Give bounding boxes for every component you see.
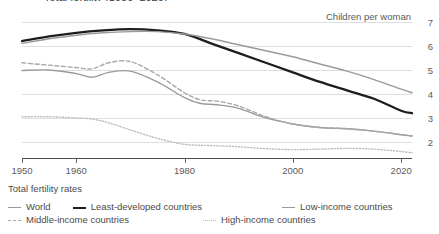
legend-line-swatch-icon	[282, 203, 295, 211]
series-line-world	[22, 70, 412, 136]
legend-line-swatch-icon	[8, 203, 21, 211]
series-line-middle-income-countries	[22, 61, 412, 136]
legend-item-label: High-income countries	[221, 214, 316, 225]
legend-row: WorldLeast-developed countriesLow-income…	[8, 200, 439, 213]
legend-line-swatch-icon	[8, 216, 21, 224]
legend-item-high-income-countries[interactable]: High-income countries	[203, 214, 316, 225]
legend-rows: WorldLeast-developed countriesLow-income…	[8, 200, 439, 226]
legend-item-least-developed-countries[interactable]: Least-developed countries	[73, 201, 202, 212]
series-line-low-income-countries	[22, 31, 412, 92]
legend-item-low-income-countries[interactable]: Low-income countries	[282, 201, 392, 212]
fertility-line-chart: Total fertility (1950–2020) Children per…	[0, 0, 439, 234]
legend-title: Total fertility rates	[8, 183, 439, 194]
legend-item-label: Low-income countries	[300, 201, 392, 212]
legend-row: Middle-income countriesHigh-income count…	[8, 213, 439, 226]
legend-line-swatch-icon	[203, 216, 216, 224]
legend-item-label: Least-developed countries	[91, 201, 202, 212]
legend-item-label: World	[26, 201, 51, 212]
legend-line-swatch-icon	[73, 203, 86, 211]
legend: Total fertility rates WorldLeast-develop…	[8, 183, 439, 226]
legend-item-label: Middle-income countries	[26, 214, 129, 225]
legend-item-middle-income-countries[interactable]: Middle-income countries	[8, 214, 129, 225]
series-line-high-income-countries	[22, 117, 412, 153]
legend-item-world[interactable]: World	[8, 201, 51, 212]
